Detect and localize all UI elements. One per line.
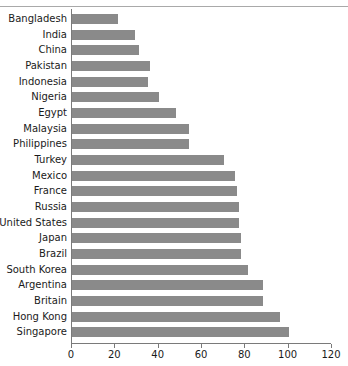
x-axis-tick-label: 80 (238, 349, 251, 360)
bar-row: South Korea (72, 262, 331, 278)
bar (72, 312, 280, 322)
category-label: Russia (35, 202, 67, 212)
bar (72, 77, 148, 87)
category-label: Indonesia (19, 77, 67, 87)
x-axis-tick (201, 344, 202, 348)
bar (72, 171, 235, 181)
bar (72, 249, 241, 259)
bar-row: Mexico (72, 168, 331, 184)
bar-row: China (72, 42, 331, 58)
bar-row: Japan (72, 230, 331, 246)
category-label: Brazil (39, 249, 67, 259)
category-label: France (34, 186, 67, 196)
bar (72, 296, 263, 306)
bar-chart: BangladeshIndiaChinaPakistanIndonesiaNig… (0, 0, 348, 366)
bar-row: Turkey (72, 152, 331, 168)
category-label: Philippines (13, 139, 67, 149)
x-axis-tick-label: 60 (195, 349, 208, 360)
category-label: Bangladesh (8, 14, 67, 24)
x-axis-tick (288, 344, 289, 348)
x-axis-tick (331, 344, 332, 348)
category-label: China (38, 45, 67, 55)
bar-row: Singapore (72, 324, 331, 340)
bar (72, 218, 239, 228)
bar-row: Indonesia (72, 74, 331, 90)
x-axis-tick-label: 120 (321, 349, 340, 360)
x-axis-tick-label: 100 (278, 349, 297, 360)
bar-row: Bangladesh (72, 11, 331, 27)
bar (72, 61, 150, 71)
bar (72, 233, 241, 243)
category-label: Malaysia (23, 124, 67, 134)
bar-row: India (72, 27, 331, 43)
bar (72, 155, 224, 165)
figure-top-rule (0, 6, 348, 7)
category-label: United States (0, 218, 67, 228)
bar (72, 265, 248, 275)
bar-row: United States (72, 215, 331, 231)
x-axis-tick-label: 20 (108, 349, 121, 360)
bar (72, 327, 289, 337)
bar-row: Britain (72, 293, 331, 309)
category-label: Singapore (17, 327, 67, 337)
x-axis-tick-label: 0 (68, 349, 74, 360)
bar (72, 124, 189, 134)
bar (72, 30, 135, 40)
category-label: Britain (34, 296, 67, 306)
bar-row: Brazil (72, 246, 331, 262)
category-label: Pakistan (25, 61, 67, 71)
category-label: Egypt (38, 108, 67, 118)
category-label: India (42, 30, 67, 40)
category-label: Hong Kong (13, 312, 67, 322)
bar-row: Philippines (72, 136, 331, 152)
category-label: Mexico (32, 171, 67, 181)
bar (72, 280, 263, 290)
bar-row: Pakistan (72, 58, 331, 74)
bar (72, 45, 139, 55)
bar-row: Hong Kong (72, 309, 331, 325)
category-label: Japan (39, 233, 67, 243)
x-axis-tick (71, 344, 72, 348)
bar (72, 186, 237, 196)
bar-row: France (72, 183, 331, 199)
bar (72, 92, 159, 102)
plot-area: BangladeshIndiaChinaPakistanIndonesiaNig… (71, 9, 331, 344)
x-axis-tick (244, 344, 245, 348)
bar-row: Russia (72, 199, 331, 215)
x-axis-tick (114, 344, 115, 348)
bar (72, 202, 239, 212)
x-axis: 020406080100120 (71, 344, 331, 366)
bar (72, 108, 176, 118)
bar-row: Malaysia (72, 121, 331, 137)
bar-series: BangladeshIndiaChinaPakistanIndonesiaNig… (72, 9, 331, 342)
bar (72, 14, 118, 24)
category-label: South Korea (6, 265, 67, 275)
bar-row: Nigeria (72, 89, 331, 105)
x-axis-tick-label: 40 (151, 349, 164, 360)
bar-row: Argentina (72, 277, 331, 293)
category-label: Nigeria (31, 92, 67, 102)
category-label: Argentina (18, 280, 67, 290)
bar (72, 139, 189, 149)
category-label: Turkey (34, 155, 67, 165)
bar-row: Egypt (72, 105, 331, 121)
x-axis-tick (158, 344, 159, 348)
